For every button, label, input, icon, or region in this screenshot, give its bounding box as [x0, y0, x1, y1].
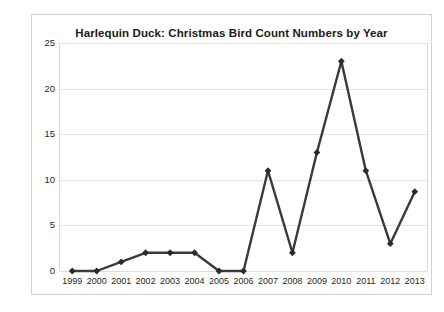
- data-point-marker: [289, 249, 296, 256]
- x-tick-label: 2006: [233, 277, 253, 286]
- chart-container: Harlequin Duck: Christmas Bird Count Num…: [31, 14, 432, 295]
- x-tick-label: 2013: [405, 277, 425, 286]
- y-tick-label: 10: [44, 175, 55, 185]
- y-tick-label: 15: [44, 129, 55, 139]
- y-tick-label: 5: [50, 221, 55, 231]
- x-tick-label: 2011: [356, 277, 375, 286]
- y-axis: 0510152025: [33, 43, 55, 271]
- y-tick-label: 0: [50, 266, 55, 276]
- data-series-line: [60, 43, 427, 271]
- x-tick-label: 2008: [282, 277, 302, 286]
- data-point-marker: [362, 167, 369, 174]
- data-point-marker: [265, 167, 272, 174]
- x-tick-label: 2012: [380, 277, 400, 286]
- x-tick-label: 2009: [307, 277, 327, 286]
- chart-title: Harlequin Duck: Christmas Bird Count Num…: [32, 27, 431, 39]
- data-point-marker: [118, 258, 125, 265]
- x-tick-label: 2007: [258, 277, 278, 286]
- x-tick-label: 2010: [331, 277, 351, 286]
- x-tick-label: 2002: [136, 277, 156, 286]
- data-point-marker: [314, 149, 321, 156]
- data-point-marker: [142, 249, 149, 256]
- x-tick-label: 2005: [209, 277, 229, 286]
- plot-area: 0510152025 19992000200120022003200420052…: [59, 43, 428, 271]
- data-point-marker: [338, 58, 345, 65]
- series-polyline: [72, 61, 415, 271]
- y-tick-label: 25: [44, 38, 55, 48]
- x-tick-label: 2000: [87, 277, 107, 286]
- x-tick-label: 1999: [62, 277, 82, 286]
- x-tick-label: 2003: [160, 277, 180, 286]
- data-point-marker: [167, 249, 174, 256]
- y-tick-label: 20: [44, 84, 55, 94]
- x-tick-label: 2004: [185, 277, 205, 286]
- x-tick-label: 2001: [111, 277, 131, 286]
